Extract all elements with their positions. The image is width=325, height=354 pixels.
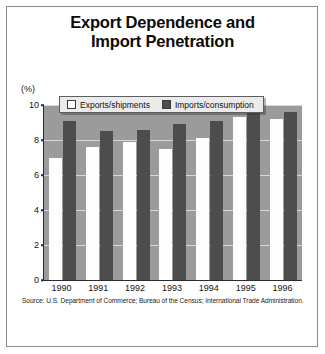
x-tick-label-1994: 1994 [194,283,224,293]
x-tick-label-1990: 1990 [46,283,76,293]
bar-group [123,105,150,280]
bar-groups [44,105,302,280]
x-tick-label-1992: 1992 [120,283,150,293]
x-tick-label-1996: 1996 [267,283,297,293]
chart-figure: Export Dependence and Import Penetration… [0,0,325,354]
y-tick-label: 4 [34,205,39,215]
chart-title-line-1: Export Dependence and [14,13,311,32]
bar-imports-1992 [137,130,150,281]
chart-legend: Exports/shipments Imports/consumption [59,96,264,113]
x-tick-label-1995: 1995 [231,283,261,293]
bar-exports-1991 [86,147,99,280]
bar-imports-1990 [63,121,76,280]
bar-exports-1992 [123,142,136,280]
legend-swatch-exports-icon [67,100,76,109]
legend-label-imports: Imports/consumption [175,100,254,110]
bar-group [270,105,297,280]
y-tick-label: 2 [34,240,39,250]
y-axis-unit-label: (%) [21,84,35,94]
bar-exports-1996 [270,119,283,280]
legend-item-exports: Exports/shipments [67,100,150,110]
bar-group [196,105,223,280]
chart-title: Export Dependence and Import Penetration [14,13,311,51]
x-axis-labels: 1990199119921993199419951996 [43,283,301,293]
bar-imports-1995 [247,107,260,280]
bar-imports-1994 [210,121,223,280]
bar-group [159,105,186,280]
bar-group [49,105,76,280]
bar-exports-1993 [159,149,172,280]
bar-imports-1991 [100,131,113,280]
bar-group [233,105,260,280]
chart-title-line-2: Import Penetration [14,32,311,51]
bar-exports-1995 [233,117,246,280]
source-note: Source: U.S. Department of Commerce; Bur… [22,297,312,304]
bar-imports-1993 [173,124,186,280]
legend-item-imports: Imports/consumption [162,100,254,110]
y-tick-label: 0 [34,275,39,285]
x-tick-label-1993: 1993 [157,283,187,293]
x-tick-label-1991: 1991 [83,283,113,293]
plot-area: 0246810 [43,105,302,281]
legend-swatch-imports-icon [162,100,171,109]
bar-exports-1994 [196,138,209,280]
y-tick-label: 6 [34,170,39,180]
y-tick-label: 10 [29,100,39,110]
bar-imports-1996 [284,112,297,280]
bar-group [86,105,113,280]
bar-exports-1990 [49,158,62,281]
legend-label-exports: Exports/shipments [80,100,150,110]
y-tick-label: 8 [34,135,39,145]
